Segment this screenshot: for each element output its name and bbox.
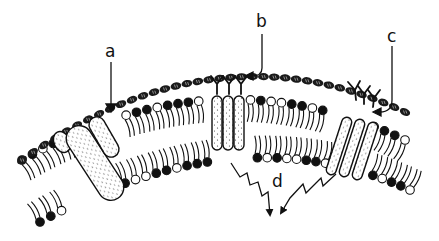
diagram-canvas: a b c d	[0, 0, 439, 241]
lipid-head	[36, 218, 45, 227]
central-receptor-rod-3	[234, 96, 244, 150]
lipid-head	[184, 98, 193, 107]
lipid-tail	[400, 165, 407, 182]
lipid-head	[57, 206, 66, 215]
lipid-head	[152, 169, 161, 178]
glycoprotein-bead	[137, 91, 150, 101]
lipid-tail	[265, 136, 266, 154]
lipid-head	[277, 98, 286, 107]
lipid-tail	[181, 107, 184, 125]
lipid-tail	[159, 150, 163, 167]
lipid-head	[387, 178, 396, 187]
lipid-head	[267, 97, 276, 106]
glycoprotein-bead	[159, 84, 171, 94]
lipid-tail	[185, 144, 189, 162]
lipid-head	[122, 111, 131, 120]
lipid-tail	[285, 136, 287, 154]
lipid-tail	[404, 167, 411, 184]
glycoprotein-bead	[181, 79, 193, 88]
lipid-head	[380, 127, 389, 136]
lipid-tail	[315, 114, 319, 131]
lipid-tail	[42, 196, 50, 212]
lipid-tail	[176, 108, 179, 126]
glycoprotein-bead	[301, 76, 313, 85]
lipid-tail	[295, 137, 297, 155]
lipid-tail	[398, 145, 406, 161]
lipid-tail	[384, 138, 391, 154]
lipid-head	[369, 171, 378, 180]
pointer-c-head	[373, 108, 381, 116]
glycoprotein-bead	[323, 80, 335, 89]
lipid-tail	[201, 105, 203, 123]
lipid-tail	[305, 138, 308, 156]
lipid-head	[174, 99, 183, 108]
lipid-tail	[300, 110, 303, 128]
lipid-tail	[125, 120, 130, 137]
glycoprotein-bead	[192, 77, 204, 86]
lipid-tail	[296, 109, 299, 127]
lipid-head	[302, 156, 311, 165]
lipid-tail	[252, 104, 254, 122]
lipid-tail	[310, 112, 314, 130]
lipid-head	[142, 172, 151, 181]
glycoprotein-bead	[388, 102, 401, 113]
lipid-tail	[382, 157, 388, 174]
lipid-tail	[170, 109, 173, 127]
lipid-head	[46, 212, 55, 221]
lipid-tail	[191, 142, 194, 160]
lipid-tail	[279, 136, 281, 154]
lipid-head	[273, 154, 282, 163]
lipid-tail	[148, 153, 153, 170]
lipid-head	[194, 97, 203, 106]
glycoprotein-bead	[269, 73, 280, 81]
lipid-tail	[290, 108, 293, 126]
lipid-tail	[267, 105, 269, 123]
lipid-tail	[174, 146, 178, 164]
lipid-tail	[269, 136, 270, 154]
lipid-tail	[324, 141, 327, 159]
lipid-tail	[54, 190, 62, 206]
lipid-head	[253, 153, 262, 162]
lipid-tail	[388, 140, 395, 156]
lipid-head	[153, 103, 162, 112]
lipid-tail	[163, 149, 167, 166]
lipid-tail	[180, 145, 184, 163]
glycoprotein-bead	[290, 75, 302, 84]
lipid-tail	[299, 137, 301, 155]
lipid-tail	[286, 108, 289, 126]
lipid-head	[312, 157, 321, 166]
glycoprotein-bead	[170, 81, 182, 91]
glycoprotein-bead	[280, 74, 291, 82]
lipid-tail	[276, 106, 279, 124]
central-receptor-rod-1	[212, 96, 222, 150]
lipid-tail	[314, 139, 317, 157]
lipid-tail	[271, 106, 273, 124]
lipid-tail	[166, 110, 169, 128]
glycoprotein-bead	[399, 106, 412, 117]
label-b: b	[256, 11, 267, 31]
lipid-head	[203, 158, 212, 167]
glycoprotein-bead	[126, 94, 139, 105]
lipid-head	[298, 102, 307, 111]
lipid-tail	[187, 107, 190, 125]
lipid-tail	[126, 159, 132, 176]
lipid-head	[283, 154, 292, 163]
lipid-tail	[395, 162, 402, 179]
lipid-tail	[414, 171, 422, 187]
lipid-tail	[150, 113, 154, 131]
label-c: c	[387, 26, 396, 46]
lipid-head	[256, 96, 265, 105]
lipid-tail	[156, 112, 160, 130]
lipid-tail	[281, 107, 284, 125]
lipid-head	[162, 166, 171, 175]
lipid-tail	[259, 136, 260, 154]
lipid-head	[193, 159, 202, 168]
lipid-head	[163, 101, 172, 110]
lipid-tail	[197, 105, 199, 123]
lipid-tail	[170, 147, 174, 165]
lipid-tail	[137, 156, 142, 173]
lipid-tail	[319, 140, 322, 158]
lipid-tail	[191, 106, 194, 124]
lipid-tail	[309, 139, 312, 157]
lipid-tail	[196, 142, 199, 160]
